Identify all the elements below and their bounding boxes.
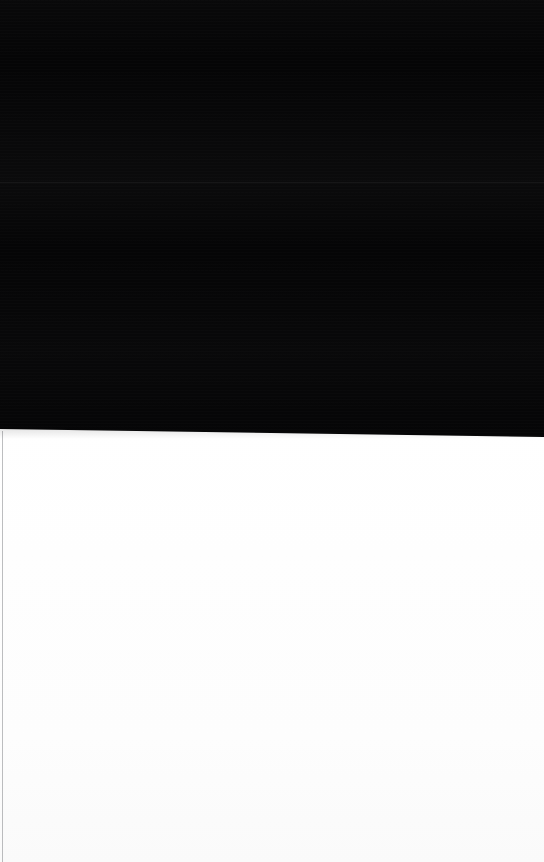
dark-region	[0, 0, 544, 444]
left-edge-rule	[2, 431, 3, 862]
dark-region-seam	[0, 182, 544, 183]
light-region-sheen	[0, 420, 544, 862]
screen-capture-root: Blank screen — no UI content rendered	[0, 0, 544, 862]
dark-region-texture	[0, 0, 544, 444]
